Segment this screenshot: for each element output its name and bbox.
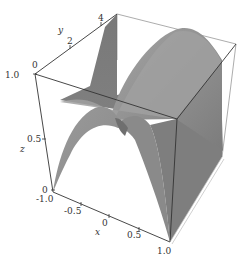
y-tick-2: 2	[67, 36, 73, 46]
x-axis-label: x	[95, 227, 100, 237]
y-tick-0: 0	[32, 60, 38, 70]
z-tick-1: 1.0	[5, 70, 20, 80]
x-tick-0: 0	[102, 218, 108, 228]
z-tick-0-5: 0.5	[27, 134, 42, 144]
x-tick-1: 1.0	[157, 246, 172, 256]
y-tick-4: 4	[98, 13, 104, 23]
x-tick-neg0-5: -0.5	[64, 206, 82, 216]
x-tick-neg1: -1.0	[36, 194, 54, 204]
surface-front-left	[53, 107, 120, 192]
surface-plot-3d: 0 2 4 y 1.0 0.5 0 z -1.0 -0.5 0 0.5 1.0 …	[0, 0, 247, 267]
x-tick-0-5: 0.5	[127, 230, 142, 240]
y-axis-label: y	[57, 25, 64, 35]
z-axis-label: z	[19, 144, 25, 154]
